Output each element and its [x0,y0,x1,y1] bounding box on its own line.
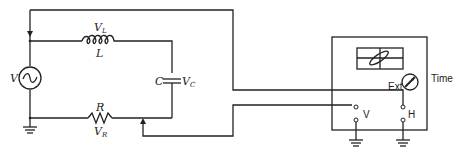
h-input-terminal [401,105,405,109]
h-input-label: H [408,109,415,120]
source-label: V [10,72,19,85]
inductor-coil [82,35,117,43]
wire-vertical-probe [143,105,352,136]
time-label: Time [431,73,453,84]
resistor-label: R [95,101,104,114]
inductor-voltage-label: VL [94,21,107,35]
inductor-label: L [95,47,103,60]
ext-label: Ext [388,81,403,92]
arrow-down-icon [27,31,33,37]
resistor-voltage-label: VR [94,125,108,139]
circuit-diagram: VL L V C VC R VR Ext Time V H [0,0,460,155]
resistor-zigzag [88,113,112,123]
capacitor-voltage-label: VC [182,75,196,89]
h-ground-terminal [401,118,405,122]
v-input-terminal [354,105,358,109]
wire-horizontal-probe [30,10,403,106]
arrow-up-icon [140,118,146,124]
v-ground-terminal [354,118,358,122]
capacitor-label: C [155,75,164,88]
v-input-label: V [363,109,370,120]
